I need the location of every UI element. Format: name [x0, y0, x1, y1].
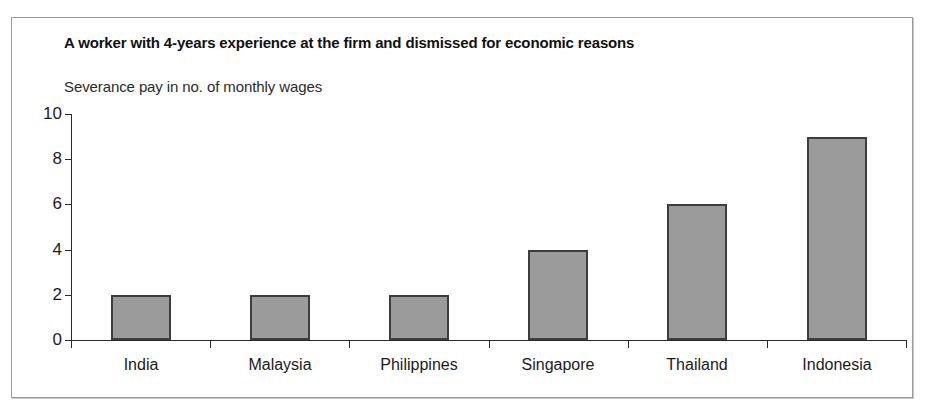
y-axis-line	[71, 114, 72, 341]
y-axis-tick-label: 2	[53, 285, 62, 305]
x-axis-label-indonesia: Indonesia	[767, 356, 907, 374]
x-axis-label-singapore: Singapore	[488, 356, 628, 374]
x-axis-tick	[628, 340, 629, 348]
bar-india	[111, 295, 171, 340]
x-axis-tick	[71, 340, 72, 348]
bar-thailand	[667, 204, 727, 340]
bar-philippines	[389, 295, 449, 340]
x-axis-label-philippines: Philippines	[349, 356, 489, 374]
bar-indonesia	[807, 137, 867, 340]
bar-singapore	[528, 250, 588, 340]
y-axis-tick	[65, 159, 71, 160]
x-axis-tick	[767, 340, 768, 348]
y-axis-tick	[65, 295, 71, 296]
x-axis-label-thailand: Thailand	[627, 356, 767, 374]
x-axis-tick	[489, 340, 490, 348]
y-axis-tick-label: 0	[53, 330, 62, 350]
y-axis-tick	[65, 250, 71, 251]
x-axis-label-india: India	[71, 356, 211, 374]
x-axis-label-malaysia: Malaysia	[210, 356, 350, 374]
y-axis-tick-label: 10	[43, 104, 62, 124]
y-axis-tick	[65, 114, 71, 115]
y-axis-tick-label: 6	[53, 194, 62, 214]
y-axis-tick-label: 8	[53, 149, 62, 169]
plot-area: 0246810 IndiaMalaysiaPhilippinesSingapor…	[71, 114, 906, 340]
x-axis-tick	[210, 340, 211, 348]
bar-malaysia	[250, 295, 310, 340]
chart-subtitle: Severance pay in no. of monthly wages	[64, 78, 322, 95]
x-axis-tick	[906, 340, 907, 348]
chart-title: A worker with 4-years experience at the …	[64, 34, 634, 51]
y-axis-tick	[65, 204, 71, 205]
y-axis-tick-label: 4	[53, 240, 62, 260]
chart-figure: A worker with 4-years experience at the …	[11, 17, 913, 398]
x-axis-tick	[349, 340, 350, 348]
